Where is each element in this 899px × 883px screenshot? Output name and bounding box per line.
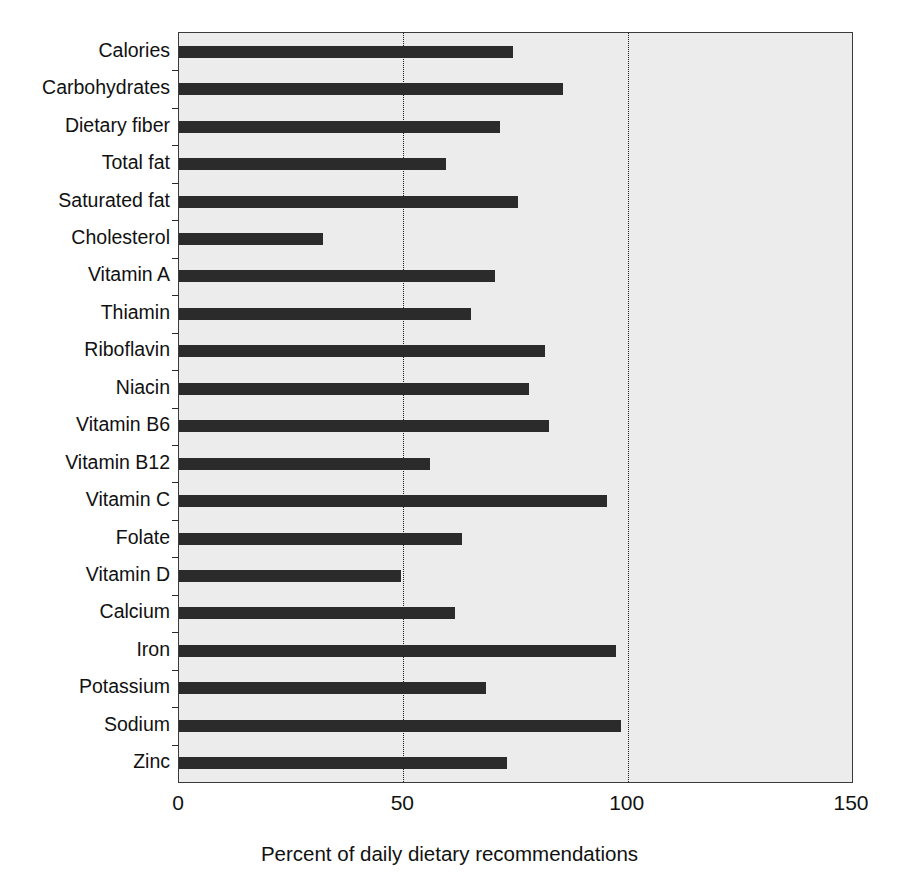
bar (179, 645, 616, 657)
bar-chart: CaloriesCarbohydratesDietary fiberTotal … (0, 0, 899, 883)
bar (179, 533, 462, 545)
y-axis-label: Carbohydrates (0, 78, 170, 98)
y-axis-label: Vitamin C (0, 490, 170, 510)
y-axis-label: Vitamin D (0, 565, 170, 585)
x-axis-tick-label: 0 (172, 790, 184, 816)
bar (179, 570, 401, 582)
y-axis-tick (172, 333, 179, 334)
bar (179, 121, 500, 133)
bar (179, 757, 507, 769)
plot-area (178, 32, 853, 783)
bar (179, 233, 323, 245)
y-axis-label: Vitamin B12 (0, 453, 170, 473)
x-axis-tick-label: 150 (833, 790, 868, 816)
bar (179, 158, 446, 170)
x-axis-title: Percent of daily dietary recommendations (0, 842, 899, 866)
y-axis-tick (172, 408, 179, 409)
y-axis-label: Calcium (0, 602, 170, 622)
y-axis-label: Potassium (0, 677, 170, 697)
bar (179, 420, 549, 432)
bar (179, 458, 430, 470)
y-axis-tick (172, 70, 179, 71)
x-axis-tick-labels: 050100150 (0, 790, 899, 826)
y-axis-label: Zinc (0, 752, 170, 772)
bar (179, 383, 529, 395)
bar (179, 720, 621, 732)
y-axis-tick (172, 370, 179, 371)
y-axis-tick (172, 670, 179, 671)
y-axis-tick (172, 595, 179, 596)
y-axis-label: Vitamin B6 (0, 415, 170, 435)
y-axis-tick (172, 220, 179, 221)
y-axis-label: Saturated fat (0, 191, 170, 211)
y-axis-label: Iron (0, 640, 170, 660)
y-axis-tick (172, 145, 179, 146)
y-axis-label: Total fat (0, 153, 170, 173)
gridline-100 (628, 33, 629, 782)
y-axis-label: Riboflavin (0, 340, 170, 360)
y-axis-label: Sodium (0, 715, 170, 735)
y-axis-label: Cholesterol (0, 228, 170, 248)
y-axis-tick (172, 745, 179, 746)
y-axis-label: Vitamin A (0, 265, 170, 285)
bar (179, 46, 513, 58)
x-axis-tick-label: 100 (609, 790, 644, 816)
y-axis-label: Niacin (0, 378, 170, 398)
y-axis-tick (172, 632, 179, 633)
y-axis-tick (172, 258, 179, 259)
y-axis-tick (172, 482, 179, 483)
bar (179, 682, 486, 694)
y-axis-tick (172, 445, 179, 446)
y-axis-tick (172, 295, 179, 296)
y-axis-tick (172, 707, 179, 708)
y-axis-label: Dietary fiber (0, 116, 170, 136)
bar (179, 495, 607, 507)
y-axis-label: Thiamin (0, 303, 170, 323)
bar (179, 83, 563, 95)
x-axis-tick-label: 50 (391, 790, 414, 816)
gridline-50 (403, 33, 404, 782)
bar (179, 345, 545, 357)
y-axis-labels: CaloriesCarbohydratesDietary fiberTotal … (0, 32, 170, 783)
bar (179, 607, 455, 619)
y-axis-tick (172, 557, 179, 558)
bar (179, 308, 471, 320)
y-axis-tick (172, 520, 179, 521)
y-axis-tick (172, 108, 179, 109)
bar (179, 270, 495, 282)
y-axis-tick (172, 183, 179, 184)
y-axis-label: Folate (0, 528, 170, 548)
bar (179, 196, 518, 208)
y-axis-label: Calories (0, 41, 170, 61)
